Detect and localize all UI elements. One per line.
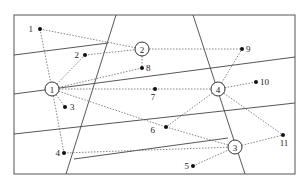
point-node: 5 [185,161,196,171]
point-label: 2 [75,50,80,60]
point-dot-icon [38,27,42,31]
point-nodes: 1234567891011 [29,24,289,171]
point-dot-icon [281,133,285,137]
point-node: 2 [75,50,88,60]
point-label: 1 [29,24,34,34]
hub-label: 2 [140,45,145,55]
point-label: 3 [70,102,75,112]
connection-edge [59,68,142,87]
point-node: 1 [29,24,43,34]
hub-label: 3 [233,143,238,153]
point-label: 9 [246,44,251,54]
point-label: 5 [185,161,190,171]
point-label: 6 [151,125,156,135]
point-dot-icon [153,87,157,91]
point-dot-icon [191,164,195,168]
connection-edge [56,95,65,107]
boundary-line [14,43,108,55]
point-dot-icon [62,151,66,155]
network-diagram: 1234567891011 1234 [0,0,302,186]
point-node: 7 [151,87,157,102]
point-node: 6 [151,125,169,135]
hub-label: 4 [216,85,221,95]
hub-node: 4 [211,82,225,96]
point-label: 10 [260,77,270,87]
connection-edge [242,135,283,145]
point-node: 10 [254,77,270,87]
point-label: 8 [146,63,151,73]
connection-edge [53,96,64,153]
connection-edge [64,147,228,153]
point-dot-icon [240,47,244,51]
point-node: 4 [56,148,67,158]
connection-edge [85,50,135,55]
point-label: 11 [280,138,289,148]
point-dot-icon [254,80,258,84]
point-dot-icon [164,125,168,129]
point-node: 8 [140,63,151,73]
point-dot-icon [140,66,144,70]
point-label: 4 [56,148,61,158]
boundary-line [74,138,228,159]
connection-edge [193,150,229,166]
hub-node: 2 [135,42,149,56]
connection-edge [40,29,135,48]
point-label: 7 [151,92,156,102]
point-node: 9 [240,44,251,54]
hub-label: 1 [50,85,55,95]
point-dot-icon [63,105,67,109]
connection-edge [225,82,256,88]
point-node: 3 [63,102,75,112]
hub-node: 1 [45,82,59,96]
point-dot-icon [83,53,87,57]
connection-edge [40,29,51,82]
hub-node: 3 [228,140,242,154]
connection-edge [166,93,212,127]
connection-edge [57,55,85,84]
connection-edge [224,93,283,135]
